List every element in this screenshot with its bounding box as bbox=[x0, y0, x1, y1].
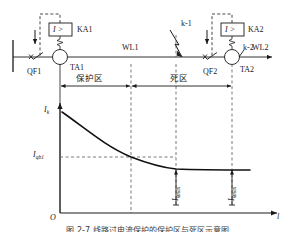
threshold-label-sub: qb1 bbox=[36, 154, 44, 160]
ct-ta1 bbox=[53, 50, 68, 65]
circuit-diagram bbox=[13, 14, 272, 72]
fault-k1-symbol bbox=[170, 30, 182, 57]
ct-ta1-label: TA1 bbox=[70, 64, 84, 72]
relay-ka2-label: KA2 bbox=[248, 26, 264, 34]
ikmax-label-1-main: I bbox=[171, 198, 180, 201]
ikmax-label-2: Ikmax bbox=[228, 187, 236, 201]
relay-ka2-symbol: I > bbox=[225, 26, 235, 34]
ikmax-label-2-sub: kmax bbox=[231, 187, 237, 199]
protection-zone-label: 保护区 bbox=[76, 74, 103, 83]
ikmax-label-1: Ikmax bbox=[172, 187, 180, 201]
line-wl2-label: WL2 bbox=[252, 44, 268, 52]
ct-ta2 bbox=[225, 50, 240, 65]
line-wl1-label: WL1 bbox=[122, 44, 138, 52]
ct-ta2-label: TA2 bbox=[240, 66, 254, 74]
fault-k2-label: k-2 bbox=[243, 44, 254, 52]
y-top-label-sub: k bbox=[47, 109, 49, 115]
zone-dimensions bbox=[60, 64, 232, 213]
diagram-svg bbox=[0, 0, 295, 232]
breaker-qf1 bbox=[29, 53, 43, 60]
chart bbox=[60, 103, 277, 213]
figure-canvas: I > I > KA1 KA2 QF1 QF2 TA1 TA2 WL1 WL2 … bbox=[0, 0, 295, 232]
ct-ta2-secondary bbox=[229, 36, 235, 50]
fault-k1-label: k-1 bbox=[181, 20, 192, 28]
current-curve bbox=[62, 112, 250, 170]
ikmax-label-2-main: I bbox=[227, 198, 236, 201]
breaker-qf1-label: QF1 bbox=[27, 68, 41, 76]
axis-origin-label: O bbox=[50, 214, 56, 222]
y-top-label: Ik bbox=[44, 106, 49, 114]
figure-caption: 图 2-7 线路过电流保护的保护区与死区示意图 bbox=[0, 224, 295, 232]
relay-ka1-label: KA1 bbox=[77, 26, 93, 34]
ct-ta1-secondary bbox=[57, 36, 63, 50]
breaker-qf2 bbox=[203, 53, 217, 60]
breaker-qf2-label: QF2 bbox=[203, 68, 217, 76]
threshold-label: Iqb1 bbox=[33, 151, 44, 159]
relay-ka1-symbol: I > bbox=[53, 26, 63, 34]
dead-zone-label: 死区 bbox=[170, 74, 188, 83]
ikmax-label-1-sub: kmax bbox=[175, 187, 181, 199]
x-axis-label: l bbox=[277, 213, 279, 221]
